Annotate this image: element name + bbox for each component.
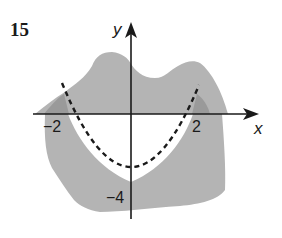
- tick-label-x-neg2: −2: [43, 118, 61, 135]
- graph-canvas: y x −2 2 −4: [0, 0, 282, 238]
- problem-number: 15: [10, 19, 29, 41]
- graph-figure: 15 y x −2 2 −4: [0, 0, 282, 238]
- tick-label-x-2: 2: [192, 118, 201, 135]
- y-axis-label: y: [112, 20, 123, 39]
- tick-label-y-neg4: −4: [106, 189, 124, 206]
- x-axis-label: x: [253, 119, 263, 138]
